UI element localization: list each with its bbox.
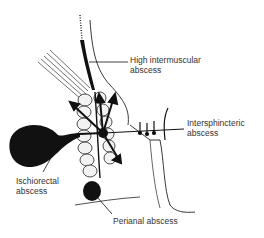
levator-ani-fibers xyxy=(38,50,90,100)
intersphincteric-pointer xyxy=(103,129,184,133)
label-line: abscess xyxy=(187,128,245,138)
ischiorectal-label: Ischiorectal abscess xyxy=(16,176,59,196)
intersphincteric-label: Intersphincteric abscess xyxy=(187,118,245,138)
label-line: Perianal abscess xyxy=(113,216,178,226)
perianal-label: Perianal abscess xyxy=(113,216,178,226)
label-line: High intermuscular xyxy=(130,55,201,65)
label-line: abscess xyxy=(16,186,59,196)
label-line: Intersphincteric xyxy=(187,118,245,128)
ischiorectal-abscess-shape xyxy=(9,125,80,167)
high-intermuscular-label: High intermuscular abscess xyxy=(130,55,201,75)
label-line: abscess xyxy=(130,65,201,75)
rectal-wall-skin xyxy=(130,125,195,212)
mucosa-dotted xyxy=(80,15,82,40)
label-line: Ischiorectal xyxy=(16,176,59,186)
